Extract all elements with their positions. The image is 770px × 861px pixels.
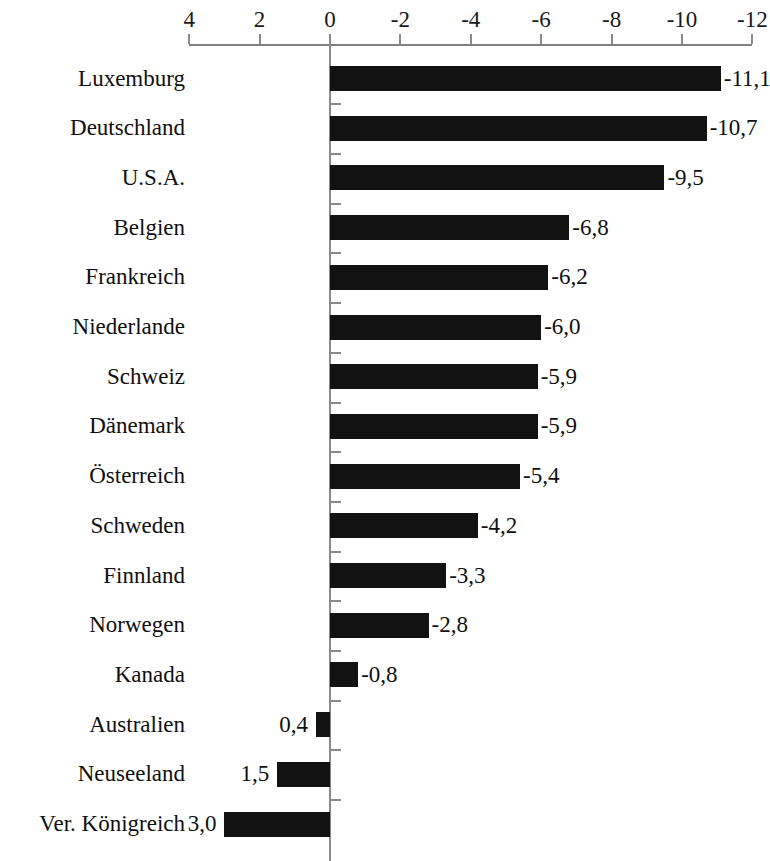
bar-value-label: -2,8 (432, 612, 468, 637)
x-axis-tick-mark (611, 34, 613, 44)
category-label: Norwegen (0, 612, 185, 637)
y-axis-tick-mark (331, 749, 341, 751)
bar-chart: 420-2-4-6-8-10-12Luxemburg-11,1Deutschla… (0, 0, 770, 861)
bar-value-label: 0,4 (279, 712, 308, 737)
category-label: U.S.A. (0, 165, 185, 190)
bar (330, 464, 520, 489)
category-label: Schweden (0, 513, 185, 538)
x-axis-tick-mark (399, 34, 401, 44)
y-axis-tick-mark (331, 451, 341, 453)
bar (330, 315, 541, 340)
bar-value-label: -5,9 (541, 364, 577, 389)
category-label: Australien (0, 712, 185, 737)
x-axis-tick-mark (751, 34, 753, 44)
y-axis-tick-mark (331, 103, 341, 105)
bar (330, 215, 569, 240)
bar (330, 662, 358, 687)
bar-value-label: -6,2 (551, 264, 587, 289)
y-axis-tick-mark (331, 252, 341, 254)
bar-value-label: -5,9 (541, 413, 577, 438)
y-axis-tick-mark (331, 799, 341, 801)
bar-value-label: -0,8 (361, 662, 397, 687)
x-axis-tick-mark (470, 34, 472, 44)
category-label: Luxemburg (0, 66, 185, 91)
x-axis-tick-label: -10 (667, 8, 698, 31)
x-axis-tick-label: -4 (461, 8, 480, 31)
bar-value-label: -11,1 (724, 66, 770, 91)
x-axis-tick-label: 4 (183, 8, 195, 31)
x-axis-tick-mark (259, 34, 261, 44)
category-label: Belgien (0, 215, 185, 240)
bar-value-label: -6,8 (572, 215, 608, 240)
x-axis-line (189, 44, 752, 46)
y-axis-tick-mark (331, 551, 341, 553)
y-axis-tick-mark (331, 302, 341, 304)
category-label: Neuseeland (0, 761, 185, 786)
bar (330, 364, 538, 389)
y-axis-tick-mark (331, 501, 341, 503)
bar-value-label: 3,0 (188, 811, 217, 836)
bar (277, 762, 330, 787)
y-axis-tick-mark (331, 700, 341, 702)
bar-value-label: 1,5 (240, 761, 269, 786)
x-axis-tick-mark (540, 34, 542, 44)
category-label: Österreich (0, 463, 185, 488)
bar-value-label: -6,0 (544, 314, 580, 339)
category-label: Schweiz (0, 364, 185, 389)
bar (224, 812, 330, 837)
y-axis-tick-mark (331, 153, 341, 155)
bar (330, 165, 664, 190)
x-axis-tick-mark (329, 34, 331, 44)
x-axis-tick-label: -6 (532, 8, 551, 31)
x-axis-tick-label: 0 (324, 8, 336, 31)
x-axis-tick-mark (681, 34, 683, 44)
bar-value-label: -9,5 (667, 165, 703, 190)
category-label: Finnland (0, 563, 185, 588)
bar (316, 712, 330, 737)
bar-value-label: -4,2 (481, 513, 517, 538)
y-axis-tick-mark (331, 352, 341, 354)
category-label: Ver. Königreich (0, 811, 185, 836)
bar (330, 513, 478, 538)
category-label: Deutschland (0, 115, 185, 140)
x-axis-tick-label: -12 (737, 8, 768, 31)
category-label: Dänemark (0, 413, 185, 438)
y-axis-tick-mark (331, 402, 341, 404)
bar (330, 265, 548, 290)
bar-value-label: -5,4 (523, 463, 559, 488)
x-axis-tick-label: -2 (391, 8, 410, 31)
category-label: Frankreich (0, 264, 185, 289)
bar (330, 414, 538, 439)
bar-value-label: -10,7 (710, 115, 758, 140)
y-axis-tick-mark (331, 650, 341, 652)
bar (330, 613, 429, 638)
x-axis-tick-mark (188, 34, 190, 44)
bar (330, 116, 707, 141)
bar (330, 563, 446, 588)
bar (330, 66, 721, 91)
x-axis-tick-label: -8 (602, 8, 621, 31)
y-axis-tick-mark (331, 600, 341, 602)
y-axis-tick-mark (331, 203, 341, 205)
category-label: Kanada (0, 662, 185, 687)
x-axis-tick-label: 2 (254, 8, 266, 31)
category-label: Niederlande (0, 314, 185, 339)
bar-value-label: -3,3 (449, 563, 485, 588)
